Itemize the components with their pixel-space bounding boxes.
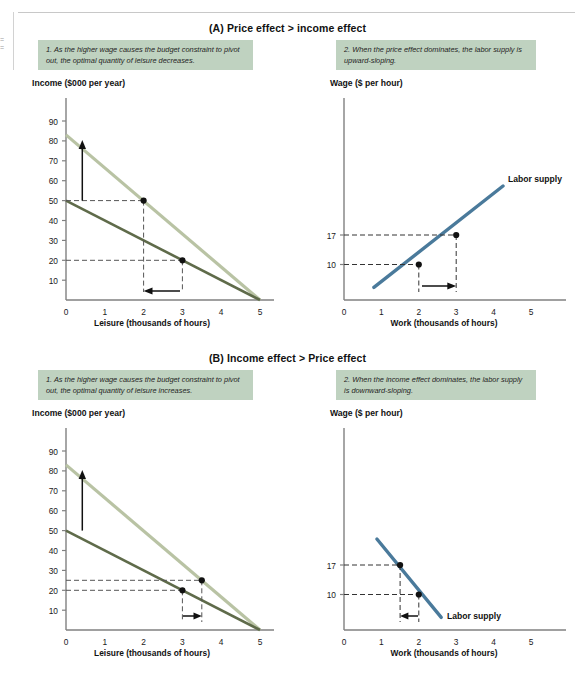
chart-a-left-x-axis-title: Leisure (thousands of hours): [22, 318, 282, 328]
chart-a-left: 90 80 70 60 50 40 30 20 10 0: [22, 96, 282, 321]
svg-text:80: 80: [49, 136, 59, 146]
x-tick-group: 0 1 2 3 4 5: [342, 637, 534, 647]
svg-text:2: 2: [141, 307, 146, 317]
svg-text:3: 3: [180, 307, 185, 317]
chart-b-left-x-axis-title: Leisure (thousands of hours): [22, 648, 282, 658]
svg-text:3: 3: [180, 637, 185, 647]
svg-text:5: 5: [258, 307, 263, 317]
leisure-decrease-arrow: [144, 287, 180, 294]
callout-a1: 1. As the higher wage causes the budget …: [38, 40, 253, 70]
chart-a-left-y-axis-title: Income ($000 per year): [32, 78, 125, 88]
svg-text:3: 3: [454, 307, 459, 317]
svg-text:60: 60: [49, 176, 59, 186]
svg-text:10: 10: [327, 260, 337, 270]
svg-text:5: 5: [258, 637, 263, 647]
svg-text:40: 40: [49, 546, 59, 556]
svg-text:0: 0: [342, 637, 347, 647]
chart-b-right: 17 10 0 1 2 3 4 5 Labor supply: [318, 426, 570, 651]
callout-a2: 2. When the price effect dominates, the …: [336, 40, 536, 70]
optimum-point-original: [179, 257, 185, 263]
supply-point-original: [416, 261, 422, 267]
callout-b1: 1. As the higher wage causes the budget …: [38, 370, 253, 400]
svg-text:5: 5: [529, 637, 534, 647]
svg-text:1: 1: [102, 637, 107, 647]
svg-text:4: 4: [491, 637, 496, 647]
chart-b-right-y-axis-title: Wage ($ per hour): [330, 408, 403, 418]
svg-text:17: 17: [327, 561, 337, 571]
svg-text:2: 2: [416, 637, 421, 647]
labor-supply-curve: [377, 539, 441, 617]
optimum-point-original: [179, 587, 185, 593]
svg-text:4: 4: [219, 637, 224, 647]
svg-text:1: 1: [102, 307, 107, 317]
work-decrease-arrow: [400, 613, 418, 620]
y-tick-group: 17 10: [327, 231, 344, 271]
svg-text:10: 10: [49, 276, 59, 286]
svg-text:17: 17: [327, 231, 337, 241]
svg-text:80: 80: [49, 466, 59, 476]
svg-text:2: 2: [141, 637, 146, 647]
optimum-point-new: [141, 198, 147, 204]
chart-a-right-y-axis-title: Wage ($ per hour): [330, 78, 403, 88]
svg-text:70: 70: [49, 486, 59, 496]
svg-text:5: 5: [529, 307, 534, 317]
y-tick-group: 90 80 70 60 50 40 30 20 10: [49, 117, 66, 286]
budget-constraint-new: [66, 465, 260, 630]
chart-b-left: 90 80 70 60 50 40 30 20 10 0 1: [22, 426, 282, 651]
y-tick-group: 17 10: [327, 561, 344, 601]
svg-text:10: 10: [49, 606, 59, 616]
left-margin-divider: [13, 12, 14, 70]
work-increase-arrow: [422, 282, 456, 289]
svg-text:3: 3: [454, 637, 459, 647]
svg-text:0: 0: [64, 307, 69, 317]
figure-page: = = (A) Price effect > income effect 1. …: [0, 0, 575, 673]
svg-text:70: 70: [49, 156, 59, 166]
y-tick-group: 90 80 70 60 50 40 30 20 10: [49, 447, 66, 616]
supply-point-original: [416, 591, 422, 597]
callout-b2: 2. When the income effect dominates, the…: [336, 370, 536, 400]
svg-text:20: 20: [49, 256, 59, 266]
svg-text:2: 2: [416, 307, 421, 317]
svg-text:0: 0: [342, 307, 347, 317]
svg-text:10: 10: [327, 590, 337, 600]
svg-text:30: 30: [49, 236, 59, 246]
margin-mark-2: =: [0, 44, 12, 52]
svg-text:4: 4: [491, 307, 496, 317]
labor-supply-label: Labor supply: [447, 611, 501, 621]
svg-text:1: 1: [379, 307, 384, 317]
svg-text:50: 50: [49, 526, 59, 536]
panel-a-title: (A) Price effect > income effect: [0, 22, 575, 34]
svg-text:60: 60: [49, 506, 59, 516]
svg-text:30: 30: [49, 566, 59, 576]
budget-constraint-new: [66, 135, 260, 300]
top-divider: [18, 12, 575, 13]
svg-text:0: 0: [64, 637, 69, 647]
margin-marks: = =: [0, 36, 12, 52]
labor-supply-curve: [374, 186, 503, 287]
supply-point-new: [453, 232, 459, 238]
svg-text:50: 50: [49, 196, 59, 206]
chart-a-right-x-axis-title: Work (thousands of hours): [318, 318, 570, 328]
x-tick-group: 0 1 2 3 4 5: [64, 637, 263, 647]
supply-point-new: [397, 562, 403, 568]
x-tick-group: 0 1 2 3 4 5: [64, 307, 263, 317]
chart-b-left-y-axis-title: Income ($000 per year): [32, 408, 125, 418]
svg-text:20: 20: [49, 586, 59, 596]
labor-supply-label: Labor supply: [508, 174, 562, 184]
optimum-point-new: [199, 577, 205, 583]
chart-a-right: 17 10 0 1 2 3 4 5 Labor supply: [318, 96, 570, 321]
svg-text:90: 90: [49, 117, 59, 127]
svg-text:4: 4: [219, 307, 224, 317]
x-tick-group: 0 1 2 3 4 5: [342, 307, 534, 317]
chart-b-right-x-axis-title: Work (thousands of hours): [318, 648, 570, 658]
panel-b-title: (B) Income effect > Price effect: [0, 352, 575, 364]
svg-text:90: 90: [49, 447, 59, 457]
svg-text:1: 1: [379, 637, 384, 647]
margin-mark-1: =: [0, 36, 12, 44]
svg-text:40: 40: [49, 216, 59, 226]
leisure-increase-arrow: [183, 613, 202, 620]
